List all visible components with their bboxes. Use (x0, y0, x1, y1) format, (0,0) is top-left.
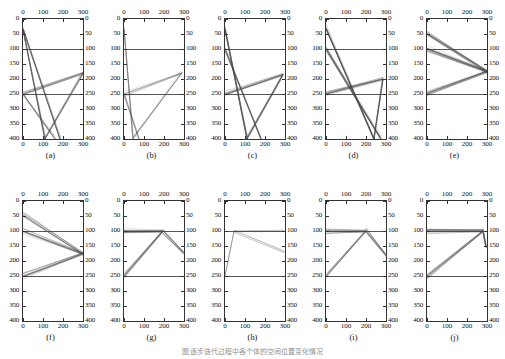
y-axis-label-right: 100 (186, 45, 196, 52)
y-axis-label-left: 350 (101, 120, 120, 127)
x-tickmark (326, 136, 327, 139)
y-axis-label-right: 300 (85, 287, 95, 294)
x-tickmark (184, 318, 185, 321)
y-tickmark (23, 216, 26, 217)
y-tickmark (225, 216, 228, 217)
x-axis-tick-label: 0 (324, 141, 328, 148)
x-axis-tick-label: 0 (122, 323, 126, 330)
x-axis-tick-label: 0 (21, 191, 25, 198)
y-tickmark (23, 109, 26, 110)
y-axis-label-right: 200 (489, 75, 499, 82)
y-tickmark (326, 79, 329, 80)
y-tickmark (80, 216, 83, 217)
subplot-i-lines (326, 201, 386, 321)
x-axis-tick-label: 0 (223, 141, 227, 148)
subplot-label-e: (e) (404, 151, 505, 160)
subplot-a: 0050501001001501502002002502503003003503… (0, 0, 101, 180)
y-axis-label-left: 250 (303, 90, 322, 97)
y-axis-label-left: 100 (202, 45, 221, 52)
y-tickmark (181, 246, 184, 247)
x-tickmark (447, 136, 448, 139)
y-tickmark (124, 306, 127, 307)
y-axis-label-right: 50 (388, 212, 395, 219)
x-axis-labels-bottom: 0100200300 (202, 141, 303, 149)
subplot-row-top: 0050501001001501502002002502503003003503… (0, 0, 505, 180)
y-axis-label-right: 200 (489, 257, 499, 264)
x-tickmark (63, 318, 64, 321)
y-tickmark (282, 216, 285, 217)
subplot-d-lines (326, 19, 386, 139)
x-axis-tick-label: 200 (462, 141, 473, 148)
x-tickmark (326, 19, 327, 22)
y-tickmark (383, 79, 386, 80)
x-axis-tick-label: 0 (122, 191, 126, 198)
y-axis-label-left: 50 (303, 212, 322, 219)
y-axis-label-right: 300 (489, 105, 499, 112)
y-axis-label-left: 150 (0, 242, 19, 249)
x-axis-tick-label: 100 (240, 9, 251, 16)
x-axis-tick-label: 200 (361, 9, 372, 16)
y-axis-label-left: 250 (404, 90, 423, 97)
x-tickmark (164, 19, 165, 22)
y-axis-label-left: 50 (101, 212, 120, 219)
x-tickmark (184, 201, 185, 204)
subplot-h: 0050501001001501502002002502503003003503… (202, 180, 303, 352)
x-axis-tick-label: 0 (425, 191, 429, 198)
x-tickmark (265, 318, 266, 321)
x-axis-tick-label: 300 (280, 323, 291, 330)
subplot-g-plot-area (123, 200, 185, 322)
x-tickmark (467, 318, 468, 321)
y-tickmark (23, 64, 26, 65)
y-tickmark (124, 79, 127, 80)
y-tickmark (282, 64, 285, 65)
x-axis-tick-label: 100 (38, 9, 49, 16)
y-axis-label-right: 250 (186, 272, 196, 279)
y-axis-label-left: 200 (202, 75, 221, 82)
x-tickmark (487, 19, 488, 22)
x-tickmark (225, 318, 226, 321)
x-tickmark (184, 136, 185, 139)
y-axis-label-left: 250 (101, 90, 120, 97)
y-axis-label-right: 150 (85, 60, 95, 67)
y-tickmark (326, 64, 329, 65)
y-tickmark (80, 124, 83, 125)
x-tickmark (245, 201, 246, 204)
y-tickmark (484, 306, 487, 307)
y-tickmark (427, 64, 430, 65)
y-axis-label-left: 50 (404, 30, 423, 37)
y-axis-label-right: 350 (388, 302, 398, 309)
y-tickmark (80, 49, 83, 50)
y-axis-label-right: 250 (287, 90, 297, 97)
y-tickmark (181, 79, 184, 80)
y-axis-label-right: 150 (85, 242, 95, 249)
x-axis-labels-bottom: 0100200300 (101, 323, 202, 331)
y-axis-label-right: 150 (287, 242, 297, 249)
y-tickmark (80, 306, 83, 307)
x-tickmark (83, 318, 84, 321)
x-axis-tick-label: 200 (58, 323, 69, 330)
y-tickmark (80, 34, 83, 35)
y-axis-label-left: 150 (101, 60, 120, 67)
y-tickmark (326, 246, 329, 247)
x-tickmark (427, 19, 428, 22)
y-tickmark (225, 94, 228, 95)
x-tickmark (386, 136, 387, 139)
y-axis-label-right: 200 (287, 257, 297, 264)
x-axis-tick-label: 0 (425, 323, 429, 330)
subplot-label-h: (h) (202, 333, 303, 342)
y-axis-label-left: 300 (0, 105, 19, 112)
subplot-e-plot-area (426, 18, 488, 140)
y-axis-label-left: 100 (404, 227, 423, 234)
y-tickmark (383, 231, 386, 232)
x-axis-tick-label: 200 (58, 191, 69, 198)
y-tickmark (23, 94, 26, 95)
x-axis-tick-label: 300 (280, 141, 291, 148)
x-tickmark (144, 201, 145, 204)
figure-container: 0050501001001501502002002502503003003503… (0, 0, 505, 359)
x-tickmark (23, 318, 24, 321)
y-axis-label-left: 300 (404, 287, 423, 294)
y-axis-label-right: 50 (287, 212, 294, 219)
x-axis-tick-label: 200 (159, 323, 170, 330)
y-tickmark (383, 276, 386, 277)
y-axis-label-left: 50 (303, 30, 322, 37)
